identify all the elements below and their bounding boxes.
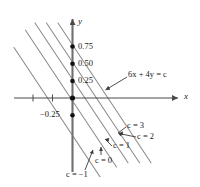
point-origin	[70, 95, 75, 100]
point-y-0.50	[70, 62, 75, 67]
point-y-0.75	[70, 44, 75, 49]
equation-label: 6x + 4y = c	[128, 70, 167, 79]
level-label-cm1: c = −1	[66, 170, 88, 179]
y-tick-label-neg025: −0.25	[40, 110, 60, 119]
level-label-c3: c = 3	[127, 121, 144, 130]
arrowhead-cm1	[90, 150, 94, 154]
point-y--0.25	[70, 113, 75, 118]
point-y-0.25	[70, 79, 75, 84]
y-axis-label: y	[78, 17, 82, 26]
level-label-c0: c = 0	[95, 156, 112, 165]
y-tick-label-025: 0.25	[78, 76, 93, 85]
equation-leader-line	[106, 77, 128, 90]
level-label-c2: c = 2	[137, 132, 154, 141]
level-label-c1: c = 1	[113, 141, 130, 150]
level-curve-figure: y x 0.75 0.50 0.25 −0.25 6x + 4y = c c =…	[0, 0, 200, 187]
arrowhead-c0	[99, 147, 103, 151]
y-tick-label-075: 0.75	[78, 42, 93, 51]
x-axis-label: x	[184, 92, 188, 101]
y-tick-label-050: 0.50	[78, 59, 93, 68]
